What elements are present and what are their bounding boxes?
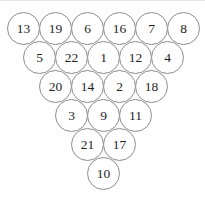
pyramid-node-label: 5 xyxy=(36,51,43,65)
pyramid-node-label: 4 xyxy=(164,51,171,65)
pyramid-node[interactable]: 10 xyxy=(87,157,120,190)
number-pyramid-figure: 131961678522112420142183911211710 xyxy=(0,0,205,202)
pyramid-container: 131961678522112420142183911211710 xyxy=(0,0,205,202)
pyramid-node-label: 7 xyxy=(148,22,155,36)
pyramid-node-label: 1 xyxy=(100,51,107,65)
pyramid-node-label: 13 xyxy=(17,22,31,36)
pyramid-row: 10 xyxy=(87,157,119,190)
pyramid-node-label: 10 xyxy=(97,167,111,181)
pyramid-node-label: 3 xyxy=(68,109,75,123)
pyramid-node-label: 9 xyxy=(100,109,107,123)
pyramid-node-label: 16 xyxy=(113,22,127,36)
pyramid-node-label: 21 xyxy=(81,138,95,152)
pyramid-node-label: 19 xyxy=(49,22,63,36)
pyramid-node-label: 2 xyxy=(116,80,123,94)
pyramid-node-label: 6 xyxy=(84,22,91,36)
pyramid-node-label: 11 xyxy=(129,109,142,123)
pyramid-node-label: 17 xyxy=(113,138,127,152)
pyramid-node-label: 14 xyxy=(81,80,95,94)
pyramid-node-label: 8 xyxy=(180,22,187,36)
pyramid-node-label: 18 xyxy=(145,80,159,94)
pyramid-node-label: 20 xyxy=(49,80,63,94)
pyramid-node-label: 22 xyxy=(65,51,79,65)
pyramid-node-label: 12 xyxy=(129,51,143,65)
